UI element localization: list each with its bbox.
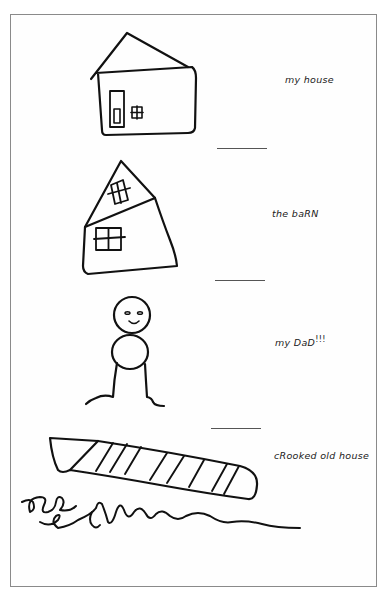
separator-line xyxy=(215,280,265,281)
stick-figure-icon xyxy=(86,297,164,406)
label-crooked-old-house: cRooked old house xyxy=(274,450,369,461)
window-icon xyxy=(131,106,143,119)
label-my-dad: my DaD!!! xyxy=(275,335,326,348)
crooked-house-icon xyxy=(50,438,257,499)
label-the-barn: the baRN xyxy=(272,208,319,219)
house-icon xyxy=(91,33,196,135)
separator-line xyxy=(211,428,261,429)
label-my-dad-text: my DaD xyxy=(275,337,315,348)
separator-line xyxy=(217,148,267,149)
scribble-waves-icon xyxy=(22,497,300,528)
label-my-dad-exclaim: !!! xyxy=(315,335,326,344)
label-my-house: my house xyxy=(285,74,334,85)
drawings-canvas xyxy=(0,0,391,599)
window-icon xyxy=(108,180,130,204)
barn-icon xyxy=(83,161,177,274)
window-icon xyxy=(94,228,125,250)
